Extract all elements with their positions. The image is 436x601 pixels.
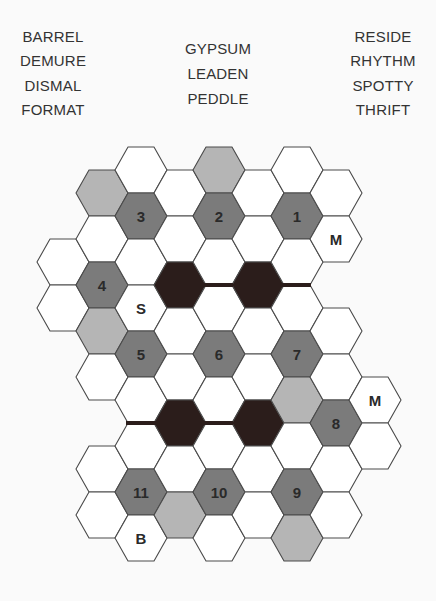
hex-label: 11 — [133, 484, 149, 501]
hex-label: 4 — [98, 277, 107, 294]
hex-label: 8 — [332, 415, 340, 432]
hex-label: 9 — [293, 484, 301, 501]
hex-label: 5 — [137, 346, 145, 363]
hex-puzzle-board: 43S511B2610179M8M — [0, 0, 436, 601]
hex-label: 1 — [293, 208, 301, 225]
hex-label: M — [330, 231, 343, 248]
hex-label: M — [369, 392, 382, 409]
hex-label: 7 — [293, 346, 301, 363]
hex-label: 6 — [215, 346, 223, 363]
hex-label: B — [136, 530, 147, 547]
hex-label: 3 — [137, 208, 145, 225]
hex-label: 2 — [215, 208, 223, 225]
hex-label: S — [136, 300, 146, 317]
hex-label: 10 — [211, 484, 228, 501]
